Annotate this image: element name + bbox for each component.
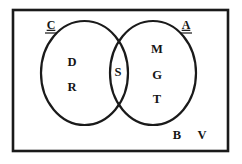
set-label-c: C	[47, 18, 56, 32]
member-d: D	[67, 55, 76, 69]
set-label-a: A	[182, 18, 191, 32]
member-b: B	[173, 128, 181, 142]
member-g: G	[152, 68, 162, 82]
member-r: R	[67, 80, 77, 94]
venn-diagram-canvas: C A D R S M G T B V	[0, 0, 242, 164]
venn-diagram-svg: C A D R S M G T B V	[0, 0, 242, 164]
member-t: T	[153, 92, 162, 106]
member-m: M	[151, 42, 163, 56]
member-s: S	[115, 65, 122, 79]
member-v: V	[197, 128, 206, 142]
